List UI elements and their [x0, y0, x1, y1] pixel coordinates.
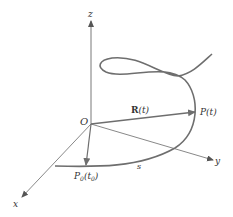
point-p-label: P(t)	[199, 107, 217, 117]
origin-label: O	[80, 116, 88, 127]
y-axis-label: y	[214, 156, 221, 166]
x-axis-label: x	[13, 199, 18, 209]
z-axis-label: z	[87, 9, 93, 19]
vector-r-label: R(t)	[131, 105, 150, 115]
vector-r-arg: (t)	[138, 105, 149, 115]
arc-length-label: s	[137, 162, 141, 171]
y-axis	[91, 124, 213, 160]
p0-arg-close: )	[94, 171, 99, 181]
point-p0-label: P0(t0)	[73, 171, 99, 182]
x-axis	[22, 124, 91, 197]
position-vector-p0	[86, 124, 91, 165]
space-curve-diagram: z y x O R(t) P(t) P0(t0) s	[0, 0, 233, 217]
